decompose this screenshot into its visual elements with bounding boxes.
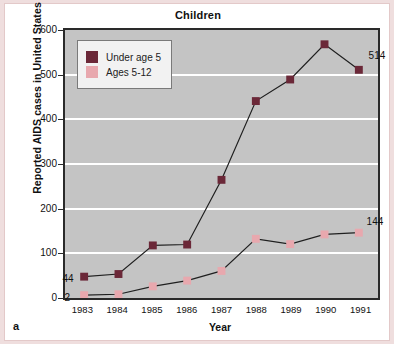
y-tick-label: 100 xyxy=(19,247,57,258)
x-axis-ticks: 198319841985198619871988198919901991 xyxy=(63,304,380,318)
y-tick-label: 0 xyxy=(19,292,57,303)
y-tick-label: 400 xyxy=(19,113,57,124)
legend-swatch-ages-5-12 xyxy=(86,66,98,78)
data-point-marker xyxy=(115,290,123,298)
legend-swatch-under-age-5 xyxy=(86,51,98,63)
legend-label-under-age-5: Under age 5 xyxy=(106,52,161,63)
panel-letter: a xyxy=(13,320,19,332)
data-point-marker xyxy=(321,40,329,48)
x-tick-label: 1988 xyxy=(246,304,267,315)
x-tick-label: 1984 xyxy=(107,304,128,315)
data-point-marker xyxy=(80,291,88,298)
plot-area: Under age 5 Ages 5-12 442514144 xyxy=(63,28,380,300)
x-axis-title: Year xyxy=(55,321,385,333)
legend-item-under-age-5: Under age 5 xyxy=(86,51,161,63)
data-point-marker xyxy=(183,277,191,285)
data-point-marker xyxy=(252,235,260,243)
point-annotation: 514 xyxy=(369,50,386,61)
data-point-marker xyxy=(321,230,329,238)
data-point-marker xyxy=(252,97,260,105)
legend-item-ages-5-12: Ages 5-12 xyxy=(86,66,161,78)
legend: Under age 5 Ages 5-12 xyxy=(77,40,172,89)
point-annotation: 144 xyxy=(367,216,384,227)
legend-label-ages-5-12: Ages 5-12 xyxy=(106,67,152,78)
point-annotation: 2 xyxy=(64,292,70,303)
x-tick-label: 1987 xyxy=(211,304,232,315)
data-point-marker xyxy=(183,241,191,249)
x-tick-label: 1989 xyxy=(280,304,301,315)
figure-panel: Children Reported AIDS cases in United S… xyxy=(4,3,390,341)
y-tick-label: 600 xyxy=(19,24,57,35)
x-tick-label: 1983 xyxy=(72,304,93,315)
data-point-marker xyxy=(149,282,157,290)
data-point-marker xyxy=(286,76,294,84)
x-tick-label: 1985 xyxy=(141,304,162,315)
series-line xyxy=(84,233,359,295)
data-point-marker xyxy=(355,66,363,74)
y-tick-label: 500 xyxy=(19,69,57,80)
data-point-marker xyxy=(218,176,226,184)
data-point-marker xyxy=(218,267,226,275)
data-point-marker xyxy=(115,270,123,278)
x-tick-label: 1986 xyxy=(176,304,197,315)
data-point-marker xyxy=(80,273,88,281)
point-annotation: 44 xyxy=(62,273,73,284)
chart-title: Children xyxy=(5,9,391,21)
y-tick-label: 300 xyxy=(19,158,57,169)
data-point-marker xyxy=(286,240,294,248)
data-point-marker xyxy=(149,241,157,249)
x-tick-label: 1991 xyxy=(350,304,371,315)
y-tick-label: 200 xyxy=(19,203,57,214)
x-tick-label: 1990 xyxy=(315,304,336,315)
data-point-marker xyxy=(355,229,363,237)
